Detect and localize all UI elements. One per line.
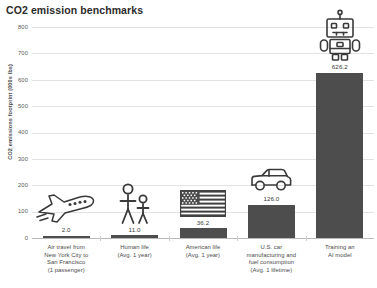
bar xyxy=(43,236,90,238)
y-axis-tick-label: 0 xyxy=(2,235,28,241)
category-label-line: Human life xyxy=(96,244,172,252)
y-axis-tick-label: 400 xyxy=(2,129,28,135)
y-axis-tick-label: 500 xyxy=(2,103,28,109)
category-label-line: (1 passenger) xyxy=(28,267,104,275)
bar xyxy=(180,228,227,238)
y-axis-tick-label: 600 xyxy=(2,77,28,83)
category-label-line: AI model xyxy=(302,252,377,260)
category-label-line: (Avg. 1 year) xyxy=(165,252,241,260)
x-axis-category-label: U.S. carmanufacturing andfuel consumptio… xyxy=(233,244,309,274)
x-axis-category-label: Human life(Avg. 1 year) xyxy=(96,244,172,259)
y-axis-tick-label: 200 xyxy=(2,182,28,188)
category-label-line: San Francisco xyxy=(28,259,104,267)
category-separator xyxy=(100,236,101,241)
category-label-line: fuel consumption xyxy=(233,259,309,267)
bar xyxy=(316,73,363,238)
car-icon xyxy=(249,167,293,193)
category-label-line: (Avg. 1 year) xyxy=(96,252,172,260)
x-axis-category-label: American life(Avg. 1 year) xyxy=(165,244,241,259)
category-label-line: Training an xyxy=(302,244,377,252)
plot-area: 2.011.036.2126.0626.2 xyxy=(32,27,374,238)
bar xyxy=(248,205,295,238)
y-axis-tick-label: 700 xyxy=(2,50,28,56)
category-label-line: American life xyxy=(165,244,241,252)
x-axis-category-label: Training anAI model xyxy=(302,244,377,259)
category-label-line: manufacturing and xyxy=(233,252,309,260)
category-label-line: New York City to xyxy=(28,252,104,260)
co2-emission-benchmarks-chart: CO2 emission benchmarks CO2 emissions fo… xyxy=(0,0,377,288)
x-axis-category-label: Air travel fromNew York City toSan Franc… xyxy=(28,244,104,274)
page-title: CO2 emission benchmarks xyxy=(6,4,143,16)
y-axis-tick-label: 100 xyxy=(2,208,28,214)
bar-value-label: 2.0 xyxy=(31,226,102,233)
category-separator xyxy=(169,236,170,241)
category-label-line: Air travel from xyxy=(28,244,104,252)
y-axis-tick-label: 300 xyxy=(2,156,28,162)
category-separator xyxy=(306,236,307,241)
bar-value-label: 11.0 xyxy=(99,226,170,233)
robot-icon xyxy=(317,9,363,61)
people-icon xyxy=(118,183,152,224)
bar-value-label: 626.2 xyxy=(304,63,375,70)
bar-value-label: 126.0 xyxy=(236,195,307,202)
category-separator xyxy=(237,236,238,241)
gridline-0 xyxy=(32,238,374,239)
category-label-line: U.S. car xyxy=(233,244,309,252)
airplane-icon xyxy=(35,190,97,224)
bar-value-label: 36.2 xyxy=(168,219,239,226)
category-label-line: (Avg. 1 lifetime) xyxy=(233,267,309,275)
bar xyxy=(111,235,158,238)
y-axis-tick-label: 800 xyxy=(2,24,28,30)
us-flag-icon xyxy=(180,190,226,217)
